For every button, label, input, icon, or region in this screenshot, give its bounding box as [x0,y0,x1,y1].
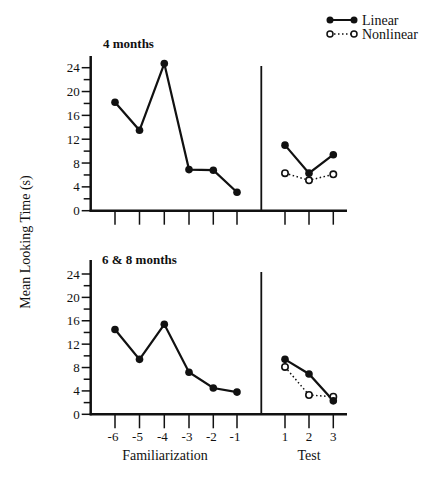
data-point-linear [281,356,289,364]
y-tick-label: 4 [73,383,80,398]
y-tick-label: 16 [67,108,81,123]
data-point-nonlinear [306,392,312,398]
data-point-nonlinear [306,177,312,183]
familiarization-line [115,324,237,392]
data-point [111,326,119,334]
data-point-linear [305,169,313,177]
data-point [210,384,218,392]
data-point [136,356,144,364]
y-axis-title: Mean Looking Time (s) [18,175,34,309]
data-point [161,320,169,328]
chart: Linear Nonlinear Mean Looking Time (s) 4… [0,0,440,477]
data-point [185,166,193,174]
data-point-linear [330,397,338,405]
y-tick-label: 12 [67,337,80,352]
data-point [233,388,241,396]
panel-6-8-months: 04812162024 [67,260,347,428]
x-tick-label: -4 [157,429,168,444]
x-axis-title-familiarization: Familiarization [122,448,208,463]
data-point [111,98,119,106]
y-tick-label: 12 [67,132,80,147]
y-tick-label: 24 [67,60,81,75]
panel-4-months: 04812162024 [67,56,347,225]
data-point [210,166,218,174]
x-tick-label: -2 [206,429,217,444]
data-point-nonlinear [282,170,288,176]
data-point-nonlinear [282,364,288,370]
x-tick-labels: -6-5-4-3-2-1123 [108,429,337,444]
x-axis-title-test: Test [297,448,320,463]
data-point [233,188,241,196]
data-point [136,126,144,134]
data-point-nonlinear [330,171,336,177]
legend-label-linear: Linear [362,13,399,28]
y-tick-label: 24 [67,267,81,282]
x-tick-label: -3 [182,429,193,444]
data-point [185,368,193,376]
x-tick-label: -6 [108,429,119,444]
legend-label-nonlinear: Nonlinear [362,27,418,42]
x-tick-label: -5 [132,429,143,444]
data-point-linear [330,151,338,159]
panel-title-4-months: 4 months [103,36,154,51]
x-tick-label: 1 [282,429,289,444]
test-line-linear [285,145,333,173]
y-tick-label: 0 [73,407,80,422]
x-tick-label: 3 [330,429,337,444]
y-tick-label: 20 [67,84,80,99]
x-tick-label: 2 [306,429,313,444]
y-tick-label: 0 [73,203,80,218]
panel-title-6-8-months: 6 & 8 months [102,252,177,267]
y-tick-label: 8 [73,156,80,171]
legend: Linear Nonlinear [327,13,419,42]
legend-item-nonlinear: Nonlinear [327,27,418,42]
x-tick-label: -1 [230,429,241,444]
y-tick-label: 8 [73,360,80,375]
familiarization-line [115,64,237,193]
y-tick-label: 4 [73,179,80,194]
data-point-linear [281,141,289,149]
legend-item-linear: Linear [327,13,399,28]
data-point-linear [305,370,313,378]
y-tick-label: 20 [67,290,80,305]
data-point [161,60,169,68]
y-tick-label: 16 [67,313,81,328]
